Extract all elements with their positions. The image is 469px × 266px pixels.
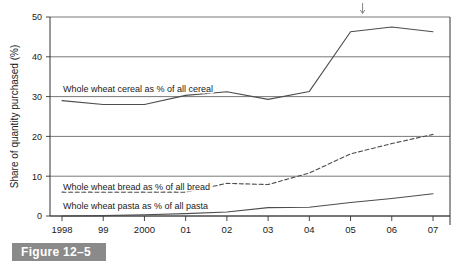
x-axis-label-01: 01 xyxy=(180,224,191,235)
series-annotation-1: Whole wheat bread as % of all bread xyxy=(63,182,210,192)
figure-caption-label: Figure 12–5 xyxy=(21,245,91,259)
y-axis-label-40: 40 xyxy=(32,52,42,62)
y-axis-label-10: 10 xyxy=(32,172,42,182)
chart-area: 01020304050199899200001020304050607Share… xyxy=(0,0,469,236)
x-axis-label-03: 03 xyxy=(263,224,274,235)
series-annotation-2: Whole wheat pasta as % of all pasta xyxy=(63,201,208,211)
x-axis-label-2000: 2000 xyxy=(134,224,155,235)
y-axis-label-20: 20 xyxy=(32,132,42,142)
x-axis-label-04: 04 xyxy=(304,224,315,235)
figure-caption-bar: Figure 12–5 xyxy=(12,243,106,261)
line-chart: 01020304050199899200001020304050607Share… xyxy=(0,0,469,236)
series-annotation-0: Whole wheat cereal as % of all cereal xyxy=(63,84,213,94)
figure-container: 01020304050199899200001020304050607Share… xyxy=(0,0,469,266)
y-axis-label-0: 0 xyxy=(37,211,42,221)
x-axis-label-02: 02 xyxy=(222,224,233,235)
y-axis-title: Share of quantity purchased (%) xyxy=(9,45,20,188)
x-axis-label-05: 05 xyxy=(345,224,356,235)
y-axis-label-30: 30 xyxy=(32,92,42,102)
x-axis-label-06: 06 xyxy=(386,224,397,235)
x-axis-label-1998: 1998 xyxy=(51,224,72,235)
y-axis-label-50: 50 xyxy=(32,12,42,22)
x-axis-label-07: 07 xyxy=(428,224,439,235)
x-axis-label-99: 99 xyxy=(98,224,109,235)
